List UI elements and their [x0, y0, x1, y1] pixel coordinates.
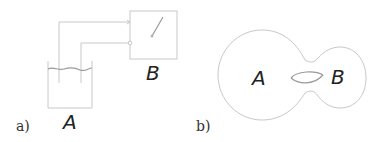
- wire-1: [59, 22, 130, 83]
- lens-top: [291, 72, 323, 78]
- panel-b-label: b): [196, 118, 210, 134]
- panel-a-label: a): [16, 118, 30, 134]
- region-b-label: B: [331, 65, 345, 89]
- wire-2: [81, 43, 130, 83]
- panel-b: A B b): [196, 30, 366, 134]
- switch-box-b: [130, 11, 177, 59]
- switch-box-b-label: B: [146, 61, 160, 85]
- wire-2-terminal: [128, 41, 132, 45]
- container-a-label: A: [61, 110, 77, 134]
- panel-a: A B a): [16, 11, 177, 134]
- lens-bottom: [291, 75, 323, 83]
- switch-lever: [152, 17, 163, 36]
- switch-pivot-dot: [151, 35, 154, 38]
- region-a-label: A: [250, 66, 266, 90]
- liquid-surface: [48, 68, 92, 71]
- figure-canvas: A B a) A B b): [0, 0, 386, 142]
